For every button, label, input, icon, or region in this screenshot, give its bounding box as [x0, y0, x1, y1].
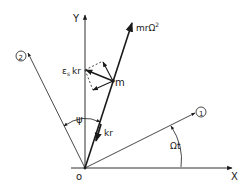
centrifugal-force-label: mrΩ2: [136, 21, 159, 33]
y-axis-label: Y: [72, 13, 80, 24]
restoring-force-label: kr: [104, 128, 113, 138]
axis-2-label: 2: [19, 54, 23, 62]
rotation-angle-label: Ωt: [170, 141, 181, 151]
centrifugal-force-vector: [85, 23, 132, 168]
psi-label: ψ: [76, 114, 83, 125]
axis-1-label: 1: [199, 110, 203, 118]
rotor-force-diagram: Y X o 1 2 mrΩ2 m εskr kr ψ Ωt: [0, 0, 249, 192]
dashed-construction-line: [85, 61, 103, 70]
mass-label: m: [115, 77, 125, 88]
damping-force-label: εskr: [62, 66, 81, 77]
origin-label: o: [76, 171, 82, 182]
x-axis-label: X: [231, 171, 238, 182]
origin-point: [84, 167, 87, 170]
damping-force-vector: [86, 70, 113, 81]
